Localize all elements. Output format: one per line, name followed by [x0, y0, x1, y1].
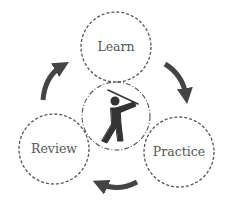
arrow-learn-to-practice [165, 64, 186, 96]
learning-cycle-diagram: Learn Practice Review [0, 0, 228, 203]
arrow-practice-to-review [100, 182, 137, 188]
node-review: Review [19, 114, 89, 184]
node-learn: Learn [81, 12, 151, 82]
arrow-review-to-learn [43, 66, 62, 100]
diagram-canvas: Learn Practice Review [0, 0, 228, 203]
learn-label: Learn [97, 39, 134, 54]
practice-label: Practice [153, 144, 205, 159]
node-practice: Practice [144, 117, 214, 187]
golfer-icon [102, 90, 138, 143]
review-label: Review [31, 141, 77, 156]
